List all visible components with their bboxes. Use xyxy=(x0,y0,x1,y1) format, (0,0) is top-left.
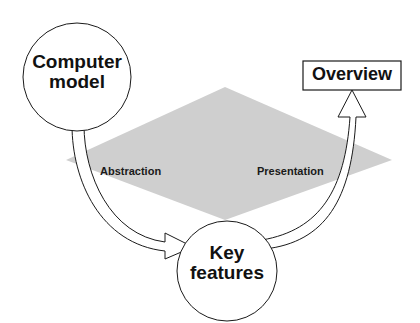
computer-model-label-line-1: Computer xyxy=(23,52,131,72)
computer-model-label-line-2: model xyxy=(23,72,131,92)
key-features-label-line-1: Key xyxy=(177,243,277,263)
overview-label: Overview xyxy=(303,65,401,84)
key-features-label-line-2: features xyxy=(177,263,277,283)
key-features-label: Key features xyxy=(177,243,277,283)
computer-model-label: Computer model xyxy=(23,52,131,92)
abstraction-label: Abstraction xyxy=(100,165,161,177)
presentation-label: Presentation xyxy=(257,165,324,177)
